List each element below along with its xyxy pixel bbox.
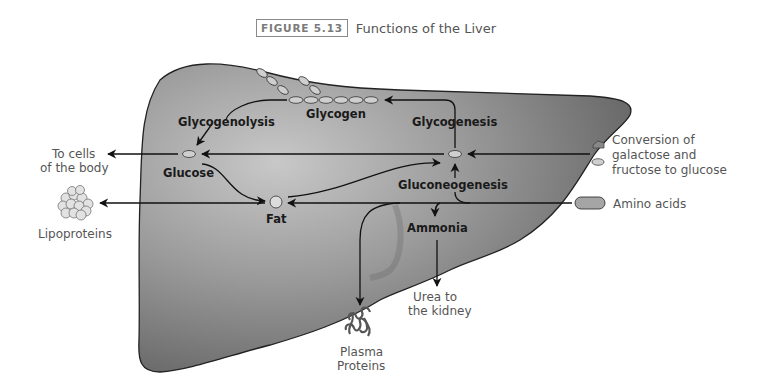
- amino-acids-icon: [575, 197, 605, 209]
- figure-number: FIGURE 5.13: [256, 19, 348, 37]
- label-plasma-line2: Proteins: [337, 359, 385, 373]
- label-urea-line2: the kidney: [408, 304, 472, 318]
- figure-caption: FIGURE 5.13 Functions of the Liver: [256, 17, 496, 39]
- label-glucose: Glucose: [163, 166, 214, 180]
- fat-droplet-icon: [270, 196, 282, 208]
- label-gluconeogenesis: Gluconeogenesis: [398, 178, 508, 192]
- label-conversion-line1: Conversion of: [612, 133, 695, 147]
- label-fat: Fat: [266, 212, 287, 226]
- figure-title: Functions of the Liver: [356, 21, 496, 36]
- liver-diagram: Glycogen Glycogenolysis Glycogenesis Glu…: [0, 0, 763, 389]
- label-conversion-line2: galactose and: [612, 148, 696, 162]
- label-plasma-line1: Plasma: [340, 345, 383, 359]
- liver-shape: [139, 64, 631, 372]
- label-to-cells-line2: of the body: [40, 161, 109, 175]
- liver-functions-figure: FIGURE 5.13 Functions of the Liver: [0, 0, 763, 389]
- label-glycogenesis: Glycogenesis: [412, 115, 497, 129]
- fructose-molecule-icon: [592, 159, 604, 166]
- label-glycogenolysis: Glycogenolysis: [178, 115, 275, 129]
- label-to-cells-line1: To cells: [51, 147, 95, 161]
- label-amino-acids: Amino acids: [613, 197, 686, 211]
- label-ammonia: Ammonia: [407, 221, 468, 235]
- glucose-molecule-right-icon: [449, 151, 462, 158]
- lipoprotein-cluster-icon: [58, 186, 93, 221]
- label-conversion-line3: fructose to glucose: [612, 163, 727, 177]
- glucose-molecule-left-icon: [183, 151, 196, 158]
- label-urea-line1: Urea to: [413, 290, 457, 304]
- label-glycogen: Glycogen: [306, 107, 366, 121]
- label-lipoproteins: Lipoproteins: [38, 227, 112, 241]
